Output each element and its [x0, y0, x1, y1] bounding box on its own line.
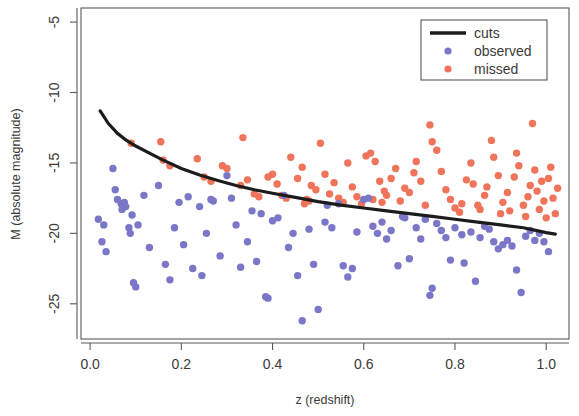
- data-point-missed: [447, 196, 454, 203]
- data-point-observed: [438, 227, 445, 234]
- data-point-observed: [401, 214, 408, 221]
- data-point-missed: [495, 172, 502, 179]
- legend-label-observed: observed: [474, 43, 532, 59]
- data-point-missed: [392, 165, 399, 172]
- data-point-missed: [349, 183, 356, 190]
- data-point-observed: [460, 259, 467, 266]
- data-point-observed: [232, 221, 239, 228]
- data-point-observed: [365, 194, 372, 201]
- data-point-observed: [314, 306, 321, 313]
- data-point-observed: [95, 216, 102, 223]
- y-axis-ticks: -5-10-15-20-25: [46, 16, 77, 314]
- data-point-observed: [413, 224, 420, 231]
- data-point-missed: [371, 158, 378, 165]
- data-point-missed: [353, 193, 360, 200]
- data-point-missed: [504, 189, 511, 196]
- data-point-missed: [321, 171, 328, 178]
- data-point-observed: [210, 197, 217, 204]
- data-point-observed: [112, 186, 119, 193]
- data-point-missed: [244, 176, 251, 183]
- data-point-observed: [180, 241, 187, 248]
- data-point-observed: [353, 228, 360, 235]
- data-point-missed: [413, 158, 420, 165]
- data-point-missed: [367, 149, 374, 156]
- data-point-observed: [490, 238, 497, 245]
- data-point-observed: [394, 262, 401, 269]
- y-tick-label: -10: [46, 82, 62, 102]
- data-point-missed: [397, 197, 404, 204]
- data-point-missed: [312, 186, 319, 193]
- data-point-missed: [287, 154, 294, 161]
- data-point-missed: [536, 206, 543, 213]
- data-point-observed: [140, 192, 147, 199]
- data-point-missed: [299, 163, 306, 170]
- data-point-observed: [102, 248, 109, 255]
- data-point-observed: [203, 230, 210, 237]
- data-point-observed: [340, 262, 347, 269]
- data-point-observed: [531, 237, 538, 244]
- data-point-missed: [330, 179, 337, 186]
- data-point-observed: [406, 255, 413, 262]
- data-point-missed: [488, 137, 495, 144]
- data-point-observed: [127, 230, 134, 237]
- data-point-missed: [527, 182, 534, 189]
- data-point-observed: [426, 292, 433, 299]
- data-point-observed: [442, 234, 449, 241]
- data-point-missed: [513, 149, 520, 156]
- data-point-missed: [442, 186, 449, 193]
- data-point-observed: [310, 261, 317, 268]
- data-point-missed: [467, 159, 474, 166]
- x-tick-label: 0.2: [172, 356, 192, 372]
- y-axis-title: M (absolute magnitude): [9, 108, 23, 239]
- data-point-missed: [326, 190, 333, 197]
- data-point-missed: [515, 162, 522, 169]
- x-tick-label: 0.0: [80, 356, 100, 372]
- data-point-observed: [517, 289, 524, 296]
- data-point-missed: [383, 192, 390, 199]
- legend-marker-observed: [444, 47, 451, 54]
- data-point-observed: [244, 238, 251, 245]
- data-point-missed: [506, 207, 513, 214]
- legend-marker-missed: [444, 65, 451, 72]
- data-point-observed: [189, 265, 196, 272]
- data-point-observed: [198, 272, 205, 279]
- data-point-observed: [433, 220, 440, 227]
- data-point-missed: [540, 197, 547, 204]
- data-point-observed: [294, 272, 301, 279]
- data-point-observed: [171, 224, 178, 231]
- data-point-observed: [508, 242, 515, 249]
- y-tick-label: -25: [46, 293, 62, 313]
- y-tick-label: -20: [46, 223, 62, 243]
- data-point-missed: [378, 199, 385, 206]
- data-point-observed: [289, 230, 296, 237]
- data-point-missed: [543, 214, 550, 221]
- data-point-missed: [538, 178, 545, 185]
- data-point-missed: [499, 199, 506, 206]
- data-point-observed: [228, 194, 235, 201]
- data-point-observed: [155, 182, 162, 189]
- data-point-observed: [387, 227, 394, 234]
- y-tick-label: -5: [46, 16, 62, 29]
- data-point-observed: [383, 235, 390, 242]
- data-point-observed: [132, 283, 139, 290]
- data-point-missed: [410, 169, 417, 176]
- scatter-chart-figure: 0.00.20.40.60.81.0 -5-10-15-20-25 cuts o…: [0, 0, 579, 416]
- data-point-observed: [122, 203, 129, 210]
- data-point-observed: [472, 278, 479, 285]
- data-point-observed: [540, 238, 547, 245]
- data-point-observed: [447, 256, 454, 263]
- data-point-observed: [248, 207, 255, 214]
- data-point-observed: [98, 238, 105, 245]
- data-point-observed: [476, 234, 483, 241]
- data-point-missed: [524, 193, 531, 200]
- data-point-observed: [223, 172, 230, 179]
- data-point-observed: [109, 165, 116, 172]
- data-point-observed: [253, 258, 260, 265]
- data-point-missed: [481, 192, 488, 199]
- data-point-observed: [237, 263, 244, 270]
- data-point-observed: [166, 276, 173, 283]
- data-point-observed: [321, 218, 328, 225]
- data-point-missed: [223, 165, 230, 172]
- data-point-missed: [531, 166, 538, 173]
- data-point-missed: [376, 178, 383, 185]
